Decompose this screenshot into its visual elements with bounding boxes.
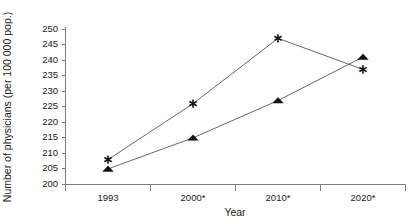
- y-axis-tick-label: 235: [42, 69, 58, 80]
- y-axis-title: Number of physicians (per 100 000 pop.): [1, 12, 13, 202]
- y-axis-title-text: Number of physicians (per 100 000 pop.): [1, 12, 13, 202]
- asterisk-marker: [189, 99, 196, 107]
- y-axis-tick-label: 230: [42, 85, 58, 96]
- x-axis-tick-label: 2000*: [181, 192, 206, 203]
- y-axis-tick-label: 240: [42, 54, 58, 65]
- y-axis-tick-label: 220: [42, 116, 58, 127]
- x-axis-title-text: Year: [224, 206, 246, 218]
- y-axis-tick-label: 215: [42, 131, 58, 142]
- y-axis-tick-label: 210: [42, 147, 58, 158]
- series-line-star-series: [108, 38, 363, 159]
- triangle-marker: [103, 166, 113, 172]
- physicians-line-chart: Number of physicians (per 100 000 pop.) …: [0, 0, 417, 221]
- y-axis-tick-label: 245: [42, 38, 58, 49]
- series-lines: [108, 38, 363, 169]
- y-axis-tick-label: 200: [42, 178, 58, 189]
- y-axis-tick-label: 250: [42, 23, 58, 34]
- triangle-marker: [358, 54, 368, 60]
- y-axis-tick-marks: [62, 29, 66, 185]
- x-axis-tick-label: 2010*: [266, 192, 291, 203]
- series-line-triangle-series: [108, 57, 363, 169]
- x-axis-tick-marks: [66, 185, 406, 191]
- asterisk-marker: [104, 155, 111, 163]
- asterisk-marker: [359, 65, 366, 73]
- series-markers: [103, 34, 368, 171]
- y-axis-tick-label: 225: [42, 100, 58, 111]
- x-axis-tick-label: 2020*: [351, 192, 376, 203]
- y-axis-tick-labels: 200205210215220225230235240245250: [42, 23, 58, 190]
- y-axis-tick-label: 205: [42, 162, 58, 173]
- triangle-marker: [188, 135, 198, 141]
- x-axis-tick-label: 1993: [97, 192, 118, 203]
- asterisk-marker: [274, 34, 281, 42]
- chart-canvas: Number of physicians (per 100 000 pop.) …: [0, 0, 417, 221]
- x-axis-tick-labels: 19932000*2010*2020*: [97, 192, 375, 203]
